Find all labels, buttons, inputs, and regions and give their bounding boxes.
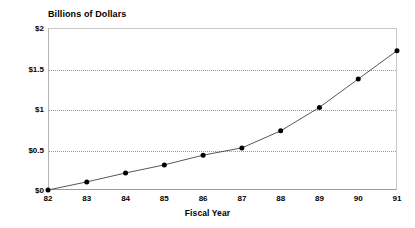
data-point xyxy=(239,145,244,150)
x-axis-title: Fiscal Year xyxy=(0,208,415,218)
series-line xyxy=(48,51,397,190)
data-point xyxy=(278,128,283,133)
data-point xyxy=(84,179,89,184)
data-point xyxy=(123,170,128,175)
chart-container: Billions of Dollars $2 $1.5 $1 $0.5 $0 8… xyxy=(0,0,415,228)
data-point xyxy=(356,77,361,82)
data-point xyxy=(201,153,206,158)
data-point xyxy=(395,48,400,53)
data-series-layer xyxy=(0,0,415,228)
data-point xyxy=(317,105,322,110)
data-point xyxy=(46,188,51,193)
data-point xyxy=(162,162,167,167)
series-markers xyxy=(46,48,400,192)
